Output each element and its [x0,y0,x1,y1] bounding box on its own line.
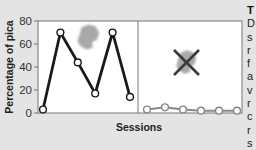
x-axis-label: Sessions [116,121,162,133]
caption-line: f [247,57,256,70]
data-point [92,90,99,97]
data-point [74,59,81,66]
data-point [198,107,205,114]
caption-line: r [247,97,256,110]
data-point [162,104,169,111]
side-caption: T Dsrfavrcrs [247,4,256,150]
y-tick-label: 60 [19,38,32,50]
data-point [40,106,47,113]
chart: 020406080 Percentage of pica Sessions [0,0,256,150]
caption-line: D [247,17,256,30]
caption-line: v [247,84,256,97]
caption-line: r [247,44,256,57]
y-tick-label: 20 [19,84,32,96]
caption-line: r [247,124,256,137]
y-axis: 020406080 [19,15,38,119]
data-point [127,94,134,101]
caption-line: c [247,110,256,123]
caption-line: s [247,31,256,44]
data-point [234,107,241,114]
y-tick-label: 40 [19,61,32,73]
caption-line: a [247,70,256,83]
data-point [109,29,116,36]
data-point [216,107,223,114]
caption-title: T [247,4,256,17]
data-point [180,106,187,113]
y-tick-label: 0 [26,107,32,119]
data-point [144,106,151,113]
y-tick-label: 80 [19,15,32,27]
data-point [57,29,64,36]
plot-area [38,21,242,113]
caption-line: s [247,137,256,150]
y-axis-label: Percentage of pica [3,20,15,114]
